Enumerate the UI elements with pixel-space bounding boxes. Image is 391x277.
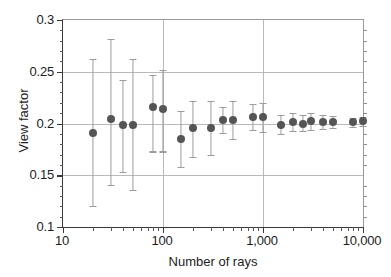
y-tick-minor-right [363,113,367,114]
y-tick-minor [60,82,64,83]
error-bar-cap-lower [290,131,297,132]
error-bar-cap-upper [260,103,267,104]
error-bar-cap-lower [360,126,367,127]
x-axis-tick-labels: 101001,00010,000 [62,233,364,251]
error-bar-cap-lower [350,127,357,128]
y-tick-minor [60,30,64,31]
x-tick-label: 10 [55,233,69,248]
y-tick-minor [60,51,64,52]
error-bar-cap-upper [290,113,297,114]
y-tick-major [57,20,63,21]
x-tick-minor [348,227,349,231]
error-bar-cap-lower [220,133,227,134]
y-tick-minor-right [363,206,367,207]
x-tick-label: 100 [151,233,172,248]
y-tick-major [57,72,63,73]
x-tick-minor [353,227,354,231]
y-tick-minor [60,41,64,42]
y-tick-minor [60,113,64,114]
y-tick-minor-right [363,155,367,156]
data-point-marker [319,118,327,126]
error-bar-cap-lower [107,185,114,186]
y-tick-label: 0.25 [29,63,54,78]
y-tick-minor [60,165,64,166]
error-bar-cap-upper [307,113,314,114]
x-tick-minor [311,227,312,231]
y-tick-major [57,124,63,125]
y-tick-minor [60,92,64,93]
error-bar-cap-upper [220,107,227,108]
error-bar-cap-lower [260,132,267,133]
error-bar-cap-lower [307,130,314,131]
y-tick-minor [60,217,64,218]
x-tick-minor [258,227,259,231]
y-tick-minor-right [363,51,367,52]
error-bar-cap-upper [90,59,97,60]
error-bar-cap-upper [229,101,236,102]
x-tick-minor [158,227,159,231]
error-bar-cap-upper [129,59,136,60]
error-bar-cap-upper [207,101,214,102]
y-tick-minor-right [363,196,367,197]
x-tick-minor [293,227,294,231]
data-point-marker [307,117,315,125]
data-point-marker [259,113,267,121]
data-point-marker [359,117,367,125]
x-tick-minor [248,227,249,231]
error-bar [110,39,111,185]
x-tick-label: 10,000 [343,233,382,248]
plot-area [62,19,364,228]
y-tick-major [57,175,63,176]
y-tick-minor-right [363,144,367,145]
x-tick-minor [123,227,124,231]
error-bar-cap-lower [90,206,97,207]
x-tick-minor [193,227,194,231]
y-tick-label: 0.2 [37,115,54,130]
y-tick-minor-right [363,82,367,83]
x-tick-minor [153,227,154,231]
error-bar-cap-upper [250,104,257,105]
error-bar-cap-upper [329,116,336,117]
y-tick-minor [60,144,64,145]
error-bar-cap-upper [160,70,167,71]
error-bar-cap-upper [177,111,184,112]
y-tick-label: 0.15 [29,167,54,182]
y-tick-minor-right [363,30,367,31]
y-tick-minor-right [363,41,367,42]
data-point-marker [159,105,167,113]
data-point-marker [207,124,215,132]
data-point-marker [149,103,157,111]
x-tick-minor [253,227,254,231]
y-tick-minor [60,134,64,135]
error-bar-cap-upper [190,101,197,102]
error-bar-cap-upper [277,115,284,116]
x-tick-minor [211,227,212,231]
y-tick-minor [60,155,64,156]
data-point-marker [177,135,185,143]
x-tick-minor [341,227,342,231]
x-tick-minor [323,227,324,231]
x-tick-minor [141,227,142,231]
data-point-marker [189,124,197,132]
x-tick-minor [241,227,242,231]
error-bar-cap-lower [320,129,327,130]
error-bar-cap-lower [229,139,236,140]
data-point-marker [349,118,357,126]
error-bar-cap-upper [107,39,114,40]
y-tick-label: 0.1 [37,219,54,234]
data-point-marker [119,121,127,129]
error-bar-cap-upper [150,75,157,76]
data-point-marker [249,113,257,121]
x-tick-minor [133,227,134,231]
y-tick-minor-right [363,61,367,62]
data-point-marker [219,116,227,124]
error-bar-cap-lower [177,167,184,168]
error-bar-cap-lower [207,155,214,156]
y-tick-minor [60,103,64,104]
y-tick-minor [60,61,64,62]
error-bar-cap-lower [277,134,284,135]
y-tick-minor [60,186,64,187]
error-bar-cap-upper [299,115,306,116]
data-point-marker [277,121,285,129]
error-bar-cap-lower [129,190,136,191]
